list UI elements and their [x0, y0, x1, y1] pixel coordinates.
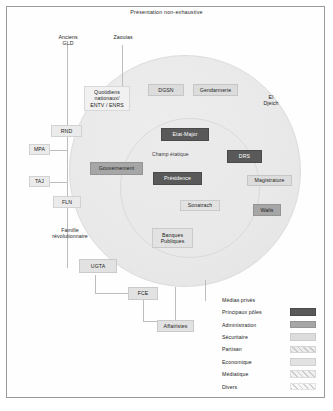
legend-item-partisan: Partisan [222, 343, 326, 355]
connector-line [205, 280, 206, 301]
legend-label: Administration [222, 322, 286, 328]
legend: Principaux pôles Administration Sécurita… [222, 306, 326, 393]
legend-label: Economique [222, 359, 286, 365]
champ-etatique-label: Champ étatique [152, 151, 189, 157]
page-title: Présentation non-exhaustive [0, 9, 333, 15]
node-anciens-gld: Anciens GLD [48, 34, 88, 46]
node-rnd: RND [51, 125, 82, 137]
node-el-djeich: El Djeich [256, 94, 286, 106]
connector-line [175, 287, 176, 321]
node-zaouias: Zaouias [104, 34, 142, 40]
legend-label: Sécuritaire [222, 334, 286, 340]
legend-swatch [290, 370, 316, 378]
diagram-page: Présentation non-exhaustive Anciens GLD … [0, 0, 333, 411]
legend-item-economique: Economique [222, 356, 326, 368]
legend-item-divers: Divers [222, 380, 326, 392]
connector-line [67, 45, 68, 130]
legend-item-principaux-poles: Principaux pôles [222, 306, 326, 318]
legend-label: Partisan [222, 346, 286, 352]
legend-swatch [290, 346, 316, 354]
legend-swatch [290, 358, 316, 366]
node-gendarmerie: Gendarmerie [193, 84, 238, 96]
node-drs: DRS [227, 150, 262, 163]
node-dgsn: DGSN [148, 84, 184, 96]
node-magistrature: Magistrature [247, 175, 292, 186]
legend-item-administration: Administration [222, 318, 326, 330]
node-medias-prives: Médias privés [222, 297, 272, 303]
node-fce: FCE [128, 287, 158, 300]
legend-item-mediatique: Médiatique [222, 368, 326, 380]
node-gouvernement: Gouvernement [90, 162, 143, 175]
legend-item-securitaire: Sécuritaire [222, 331, 326, 343]
legend-swatch [290, 308, 316, 316]
legend-label: Principaux pôles [222, 309, 286, 315]
node-ugta: UGTA [79, 259, 117, 273]
legend-label: Divers [222, 384, 286, 390]
node-taj: TAJ [29, 176, 50, 187]
legend-label: Médiatique [222, 371, 286, 377]
node-famille-revolutionnaire: Famille révolutionnaire [44, 224, 96, 242]
node-fln: FLN [53, 196, 81, 208]
node-affairistes: Affairistes [157, 320, 194, 332]
node-quotidiens-nationaux: Quotidiens nationaux/ ENTV / ENRS [84, 86, 130, 111]
connector-line [67, 240, 68, 268]
legend-swatch [290, 333, 316, 341]
legend-swatch [290, 321, 316, 329]
node-walis: Walis [253, 204, 281, 216]
legend-swatch [290, 383, 316, 391]
node-sonatrach: Sonatrach [180, 200, 220, 211]
connector-line [122, 45, 123, 87]
connector-line [95, 275, 96, 293]
node-etat-major: Etat-Major [161, 128, 209, 141]
node-mpa: MPA [29, 144, 50, 155]
node-presidence: Présidence [153, 172, 202, 185]
node-banques-publiques: Banques Publiques [152, 228, 193, 248]
